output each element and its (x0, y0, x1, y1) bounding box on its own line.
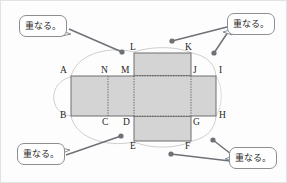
leader-dot-top-left (119, 49, 124, 54)
callout-bottom-left-text: 重なる。 (23, 150, 59, 159)
vertex-label-F: F (185, 142, 190, 152)
vertex-label-L: L (130, 43, 136, 53)
vertex-label-J: J (193, 66, 197, 76)
vertex-label-H: H (219, 111, 226, 121)
arc-E-F-bottom (134, 141, 192, 147)
leader-dot-bottom-right-b (210, 137, 215, 142)
vertex-label-E: E (130, 142, 136, 152)
leader-bottom-right-a (171, 154, 230, 161)
callout-bottom-left[interactable]: 重なる。 (17, 143, 65, 165)
callout-top-left-text: 重なる。 (25, 22, 61, 31)
face-bottom (134, 116, 191, 141)
vertex-label-G: G (193, 118, 200, 128)
callout-bottom-right[interactable]: 重なる。 (229, 147, 277, 169)
callout-top-right-text: 重なる。 (233, 20, 269, 29)
callout-top-right[interactable]: 重なる。 (227, 13, 275, 35)
leader-top-right-a (172, 27, 227, 41)
vertex-label-B: B (60, 111, 66, 121)
face-center-overlay (134, 76, 191, 116)
vertex-label-K: K (185, 43, 192, 53)
figure-canvas: A N M J I B C D G H L K E F 重なる。 重なる。 重な… (0, 0, 287, 183)
vertex-label-N: N (101, 66, 108, 76)
leader-top-left (69, 29, 122, 52)
vertex-label-D: D (123, 118, 130, 128)
leader-dot-top-right-b (211, 50, 216, 55)
vertex-label-C: C (102, 118, 108, 128)
leader-dot-bottom-left (118, 133, 123, 138)
callout-top-left[interactable]: 重なる。 (19, 15, 67, 37)
arc-L-K-top (134, 48, 192, 53)
leader-dot-bottom-right-a (168, 151, 173, 156)
callout-bottom-right-text: 重なる。 (235, 154, 271, 163)
vertex-label-M: M (121, 66, 129, 76)
vertex-label-I: I (219, 66, 222, 76)
face-top (134, 53, 191, 76)
leader-top-right-b (214, 32, 228, 53)
leader-dot-top-right-a (169, 38, 174, 43)
vertex-label-A: A (60, 66, 67, 76)
